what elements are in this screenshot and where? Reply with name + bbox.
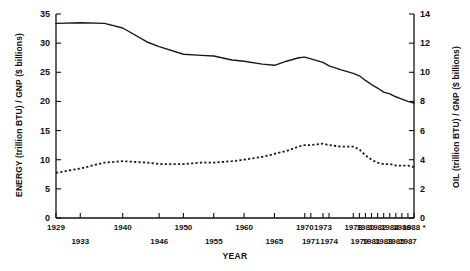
y-axis-right-tick-label: 2 xyxy=(420,184,444,194)
chart-figure: 05101520253035 02468101214 1929194019501… xyxy=(0,0,470,271)
y-axis-left-tick-label: 20 xyxy=(26,96,50,106)
x-axis-tick-label-upper: 1970 xyxy=(296,223,314,232)
y-axis-left-tick-label: 5 xyxy=(26,184,50,194)
y-axis-left-tick-label: 15 xyxy=(26,126,50,136)
y-axis-right-tick-label: 6 xyxy=(420,126,444,136)
x-axis-tick-label-lower: 1971 xyxy=(302,237,320,246)
y-axis-right-tick-label: 12 xyxy=(420,38,444,48)
y-axis-left-tick-label: 10 xyxy=(26,155,50,165)
x-axis-tick-label-upper: 1988 * xyxy=(402,223,425,232)
x-axis-tick-label-lower: 1946 xyxy=(150,237,168,246)
x-axis-ticks xyxy=(56,213,414,218)
y-axis-right-tick-label: 14 xyxy=(420,9,444,19)
x-axis-tick-label-upper: 1929 xyxy=(47,223,65,232)
axis-lines xyxy=(56,14,414,218)
y-axis-left-title: ENERGY (trillion BTU) / GNP ($ billions) xyxy=(14,25,24,205)
x-axis-tick-label-lower: 1974 xyxy=(320,237,338,246)
y-axis-left-tick-label: 25 xyxy=(26,67,50,77)
x-axis-tick-label-upper: 1940 xyxy=(114,223,132,232)
x-axis-tick-label-lower: 1955 xyxy=(205,237,223,246)
y-axis-right-tick-label: 8 xyxy=(420,96,444,106)
y-axis-left-tick-label: 35 xyxy=(26,9,50,19)
y-axis-right-title: OIL (trillion BTU) / GNP ($ billions) xyxy=(451,27,461,207)
y-axis-right-tick-label: 4 xyxy=(420,155,444,165)
x-axis-title: YEAR xyxy=(0,251,470,261)
y-axis-right-tick-label: 0 xyxy=(420,213,444,223)
x-axis-tick-label-upper: 1973 xyxy=(314,223,332,232)
y-axis-right-ticks xyxy=(409,14,414,218)
x-axis-tick-label-upper: 1960 xyxy=(235,223,253,232)
x-axis-tick-label-lower: 1933 xyxy=(71,237,89,246)
x-axis-tick-label-upper: 1950 xyxy=(174,223,192,232)
x-axis-tick-label-lower: 1965 xyxy=(265,237,283,246)
y-axis-right-tick-label: 10 xyxy=(420,67,444,77)
data-series-layer xyxy=(56,23,414,173)
y-axis-left-tick-label: 30 xyxy=(26,38,50,48)
oil-gnp-line xyxy=(56,144,414,173)
x-axis-tick-label-lower: 1987 xyxy=(399,237,417,246)
y-axis-left-ticks xyxy=(56,14,61,218)
energy-gnp-line xyxy=(56,23,414,103)
y-axis-left-tick-label: 0 xyxy=(26,213,50,223)
